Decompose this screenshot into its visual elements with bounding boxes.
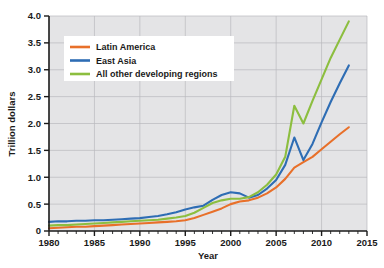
x-tick-label: 2010	[311, 237, 332, 248]
y-axis-title: Trillion dollars	[6, 92, 17, 157]
x-axis-title: Year	[198, 250, 218, 261]
legend-label: Latin America	[96, 42, 156, 52]
y-tick-label: 3.0	[28, 64, 41, 75]
chart-figure: 19801985199019952000200520102015 00.51.0…	[0, 0, 384, 268]
y-tick-label: 2.5	[28, 91, 42, 102]
x-tick-label: 2005	[266, 237, 288, 248]
y-tick-label: 1.5	[28, 145, 42, 156]
chart-legend: Latin AmericaEast AsiaAll other developi…	[64, 36, 234, 81]
x-tick-label: 2000	[220, 237, 241, 248]
y-tick-label: 1.0	[28, 172, 41, 183]
y-tick-label: 0.5	[28, 199, 42, 210]
y-tick-label: 0	[36, 225, 41, 236]
legend-label: East Asia	[96, 56, 137, 66]
y-tick-label: 3.5	[28, 37, 42, 48]
x-tick-label: 1990	[129, 237, 150, 248]
x-tick-label: 1980	[38, 237, 59, 248]
x-tick-label: 1995	[175, 237, 197, 248]
x-tick-label: 1985	[84, 237, 106, 248]
y-tick-label: 4.0	[28, 10, 41, 21]
y-tick-label: 2.0	[28, 118, 41, 129]
line-chart: 19801985199019952000200520102015 00.51.0…	[0, 0, 384, 268]
x-tick-label: 2015	[356, 237, 378, 248]
legend-label: All other developing regions	[96, 69, 218, 79]
y-axis-tick-labels: 00.51.01.52.02.53.03.54.0	[28, 10, 42, 236]
